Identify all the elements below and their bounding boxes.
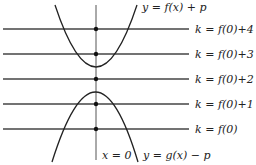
dot-level-2 (94, 77, 98, 81)
upper-curve-label: y = f(x) + p (141, 1, 207, 14)
dot-level-0 (94, 127, 98, 131)
level-label-f0-plus-3: k = f(0)+3 (195, 48, 254, 61)
level-label-f0: k = f(0) (195, 123, 238, 136)
dot-level-1 (94, 102, 98, 106)
level-label-f0-plus-2: k = f(0)+2 (195, 73, 254, 86)
dot-level-4 (94, 27, 98, 31)
diagram-canvas: y = f(x) + p y = g(x) − p x = 0 k = f(0)… (0, 0, 256, 165)
dot-level-3 (94, 52, 98, 56)
lower-curve-label: y = g(x) − p (142, 149, 211, 162)
level-label-f0-plus-1: k = f(0)+1 (195, 98, 254, 111)
axis-label: x = 0 (102, 149, 131, 162)
level-label-f0-plus-4: k = f(0)+4 (195, 23, 254, 36)
